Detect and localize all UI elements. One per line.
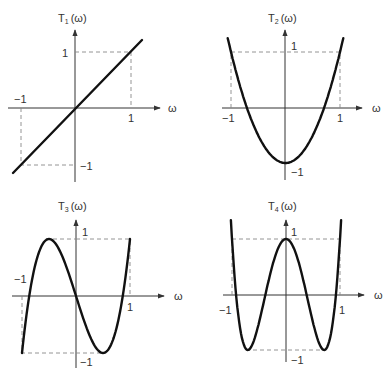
plot-title: T3(ω)	[58, 200, 87, 213]
plot-t1: T1(ω) 1 −1 −1 1 ω	[8, 12, 177, 182]
y-tick-neg1: −1	[80, 160, 93, 172]
y-tick-1: 1	[291, 40, 297, 52]
y-tick-1: 1	[82, 226, 88, 238]
plot-t3: T3(ω) 1 −1 −1 1 ω	[12, 200, 183, 368]
x-tick-neg1: −1	[222, 112, 235, 124]
plot-title: T1(ω)	[58, 12, 87, 25]
plot-title: T2(ω)	[268, 12, 297, 25]
guide-lines	[76, 239, 130, 296]
curve-t1	[13, 40, 142, 173]
x-tick-neg1: −1	[219, 304, 232, 316]
y-tick-1: 1	[62, 47, 68, 59]
y-tick-neg1: −1	[291, 166, 304, 178]
x-axis-label: ω	[168, 102, 177, 114]
y-tick-1: 1	[291, 226, 297, 238]
x-axis-label: ω	[372, 102, 381, 114]
x-tick-1: 1	[337, 112, 343, 124]
plot-t4: T4(ω) 1 −1 −1 1 ω	[219, 200, 383, 366]
y-tick-neg1: −1	[291, 354, 304, 366]
x-axis-label: ω	[174, 290, 183, 302]
x-tick-1: 1	[127, 301, 133, 313]
plot-t2: T2(ω) 1 −1 −1 1 ω	[222, 12, 381, 180]
y-tick-neg1: −1	[80, 356, 93, 368]
plot-title: T4(ω)	[268, 200, 297, 213]
x-tick-1: 1	[339, 304, 345, 316]
guide-lines	[22, 296, 76, 353]
x-tick-1: 1	[128, 112, 134, 124]
x-axis-label: ω	[374, 289, 383, 301]
x-tick-neg1: −1	[14, 93, 27, 105]
chebyshev-figure: T1(ω) 1 −1 −1 1 ω T2(ω) 1 −1 −1 1 ω T3(ω…	[0, 0, 392, 377]
x-tick-neg1: −1	[14, 273, 27, 285]
